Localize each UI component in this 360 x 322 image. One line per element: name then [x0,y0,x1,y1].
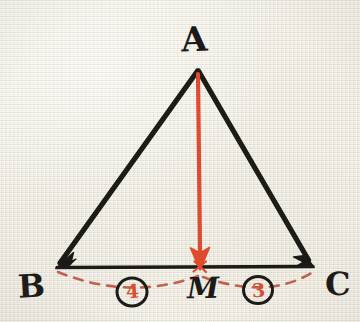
marker-3-digit: 3 [252,281,266,300]
edge-AM-median [191,74,210,272]
triangle-figure [0,0,360,322]
vertex-label-A: A [180,22,208,57]
edge-AB [56,71,198,269]
vertex-label-B: B [17,269,46,302]
diagram-canvas: A B C M 4 3 [0,0,360,322]
vertex-label-M: M [187,274,220,304]
vertex-label-C: C [325,268,351,300]
marker-4-digit: 4 [126,282,140,302]
edge-BC [57,267,313,268]
edge-AC [199,71,315,268]
